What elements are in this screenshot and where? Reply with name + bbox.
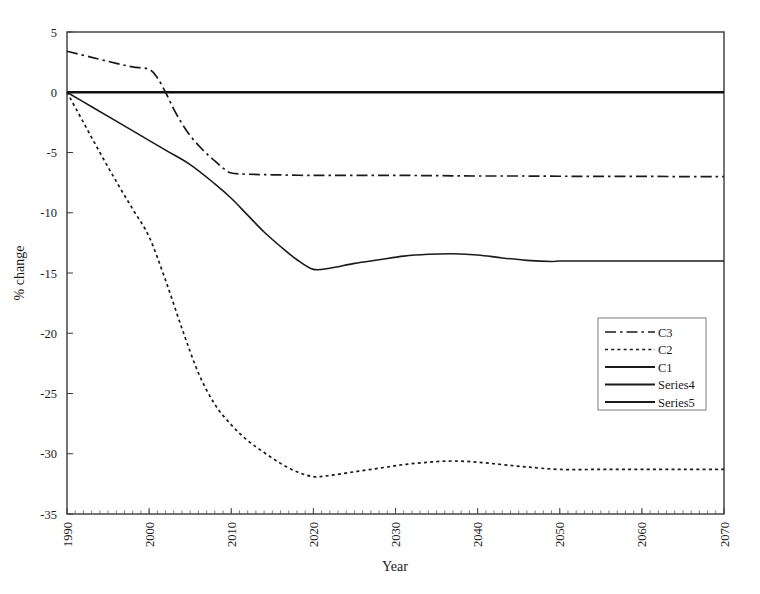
plot-frame: [67, 32, 724, 514]
chart-legend: C3C2C1Series4Series5: [598, 318, 706, 410]
legend-label-c3: C3: [658, 326, 673, 340]
y-axis-ticks: 50-5-10-15-20-25-30-35: [40, 26, 73, 522]
legend-label-series4: Series4: [658, 378, 696, 392]
series-line-c1: [67, 92, 724, 270]
legend-label-c2: C2: [658, 343, 673, 357]
x-tick-label: 2000: [143, 522, 157, 547]
y-tick-label: -5: [47, 146, 57, 160]
series-line-c3: [67, 51, 724, 176]
line-chart: 50-5-10-15-20-25-30-35 19902000201020202…: [0, 0, 760, 594]
y-tick-label: -15: [40, 267, 57, 281]
x-tick-label: 2010: [225, 522, 239, 547]
y-tick-label: 5: [51, 26, 57, 40]
x-axis-minor-ticks: [67, 511, 724, 515]
y-axis-title: % change: [12, 246, 27, 301]
y-tick-label: -35: [40, 508, 57, 522]
x-tick-label: 2060: [635, 522, 649, 547]
legend-label-series5: Series5: [658, 396, 695, 410]
y-tick-label: -10: [40, 206, 57, 220]
chart-container: 50-5-10-15-20-25-30-35 19902000201020202…: [0, 0, 760, 594]
y-tick-label: -20: [40, 327, 57, 341]
x-tick-label: 2070: [718, 522, 732, 547]
x-tick-label: 2040: [471, 522, 485, 547]
series-lines: [67, 51, 724, 477]
x-tick-label: 1990: [61, 522, 75, 547]
y-tick-label: -25: [40, 387, 57, 401]
x-tick-label: 2020: [307, 522, 321, 547]
legend-label-c1: C1: [658, 361, 673, 375]
x-tick-label: 2050: [553, 522, 567, 547]
x-axis-title: Year: [382, 559, 408, 574]
plot-frame-group: [67, 32, 724, 514]
y-tick-label: 0: [51, 86, 57, 100]
x-tick-label: 2030: [389, 522, 403, 547]
y-tick-label: -30: [40, 447, 57, 461]
